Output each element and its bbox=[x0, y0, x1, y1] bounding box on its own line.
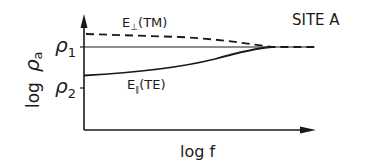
te-curve bbox=[84, 47, 272, 76]
rho1-label: ρ1 bbox=[55, 33, 76, 60]
te-label: E∥(TE) bbox=[127, 77, 166, 94]
rho2-label: ρ2 bbox=[55, 74, 76, 101]
tm-label: E⊥(TM) bbox=[122, 15, 167, 32]
tm-curve bbox=[86, 34, 318, 47]
x-axis-label: log f bbox=[180, 142, 215, 161]
site-title: SITE A bbox=[292, 11, 340, 29]
x-axis-arrow-icon bbox=[300, 127, 316, 134]
y-axis-label: logρa bbox=[20, 51, 45, 108]
mt-apparent-resistivity-diagram: SITE A E⊥(TM) E∥(TE) ρ1 ρ2 logρa log f bbox=[0, 0, 369, 167]
y-axis-arrow-icon bbox=[81, 14, 88, 28]
